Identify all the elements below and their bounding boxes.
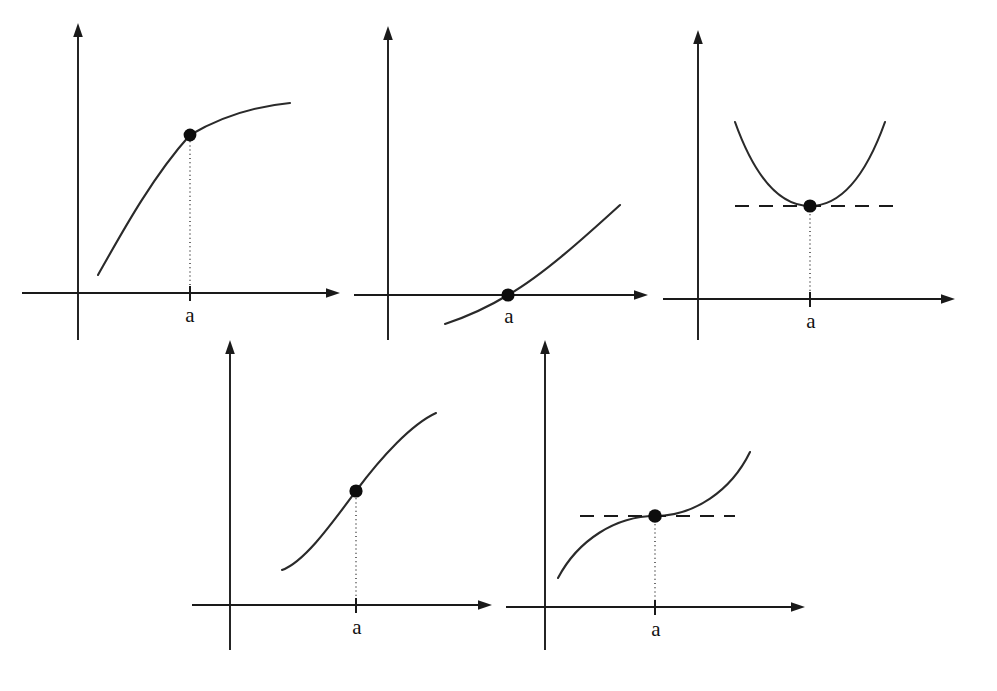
panel-1-tick-label: a: [185, 303, 195, 327]
panel-3-x-axis-arrow-icon: [941, 294, 955, 304]
panel-1-point-dot: [184, 129, 197, 142]
panel-2-curve: [445, 205, 620, 324]
panel-5-group: a: [506, 340, 805, 650]
panel-3-curve: [735, 122, 885, 206]
panel-1-y-axis-arrow-icon: [73, 23, 83, 37]
panel-4-group: a: [192, 340, 492, 650]
panel-1-curve: [98, 103, 290, 275]
panel-1-x-axis-arrow-icon: [326, 288, 340, 298]
panel-5-point-dot: [648, 509, 662, 523]
panel-3-point-dot: [803, 199, 816, 212]
panel-5-x-axis-arrow-icon: [791, 602, 805, 612]
panel-2-tick-label: a: [504, 304, 514, 328]
panel-5-y-axis-arrow-icon: [540, 340, 550, 354]
panel-1-group: a: [22, 23, 340, 340]
panel-3-tick-label: a: [806, 309, 816, 333]
panel-5-tick-label: a: [651, 617, 661, 641]
panel-4-y-axis-arrow-icon: [225, 340, 235, 354]
panel-2-group: a: [354, 26, 648, 340]
panel-3-y-axis-arrow-icon: [693, 30, 703, 44]
figure-container: a a a: [0, 0, 997, 691]
panel-2-y-axis-arrow-icon: [383, 26, 393, 40]
panel-2-point-dot: [501, 288, 514, 301]
graphs-figure-svg: a a a: [0, 0, 997, 691]
panel-2-x-axis-arrow-icon: [634, 290, 648, 300]
panel-4-x-axis-arrow-icon: [478, 600, 492, 610]
panel-4-tick-label: a: [352, 615, 362, 639]
panel-3-group: a: [663, 30, 955, 340]
panel-4-point-dot: [349, 484, 362, 497]
